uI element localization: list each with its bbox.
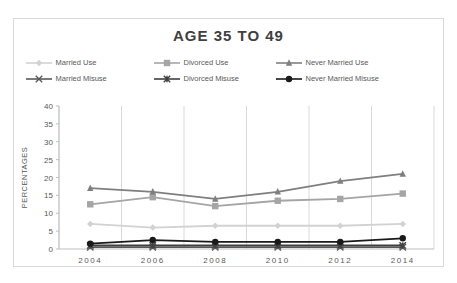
square-marker-icon xyxy=(212,203,218,209)
legend-key-icon xyxy=(275,57,303,69)
legend-label: Married Misuse xyxy=(56,74,107,83)
legend: Married UseDivorced UseNever Married Use… xyxy=(14,55,443,86)
circle-marker-icon xyxy=(150,237,156,243)
legend-label: Never Married Use xyxy=(306,58,369,67)
diamond-marker-icon xyxy=(150,224,156,230)
legend-label: Divorced Misuse xyxy=(184,74,239,83)
legend-item-divorced-misuse: Divorced Misuse xyxy=(153,71,275,86)
legend-label: Married Use xyxy=(56,58,97,67)
legend-item-never-married-use: Never Married Use xyxy=(275,55,433,70)
legend-key-icon xyxy=(153,73,181,85)
diamond-marker-icon xyxy=(400,221,406,227)
y-tick-label: 25 xyxy=(44,156,53,165)
diamond-marker-icon xyxy=(212,223,218,229)
diamond-marker-icon xyxy=(337,223,343,229)
square-marker-icon xyxy=(400,190,406,196)
y-tick-label: 35 xyxy=(44,120,53,129)
x-tick-label: 2014 xyxy=(391,256,415,265)
x-tick-label: 2006 xyxy=(141,256,165,265)
square-marker-icon xyxy=(87,201,93,207)
legend-item-never-married-misuse: Never Married Misuse xyxy=(275,71,433,86)
legend-key-icon xyxy=(25,73,53,85)
diamond-marker-icon xyxy=(275,223,281,229)
y-tick-label: 40 xyxy=(44,102,53,111)
diamond-marker-icon xyxy=(35,59,41,65)
x-tick-label: 2012 xyxy=(328,256,352,265)
y-axis-ticks: 0510152025303540 xyxy=(44,102,59,254)
legend-label: Divorced Use xyxy=(184,58,229,67)
circle-marker-icon xyxy=(337,239,343,245)
y-tick-label: 20 xyxy=(44,174,53,183)
legend-item-married-use: Married Use xyxy=(25,55,153,70)
y-tick-label: 5 xyxy=(49,227,54,236)
y-tick-label: 10 xyxy=(44,209,53,218)
legend-key-icon xyxy=(25,57,53,69)
x-axis-ticks: 200420062008201020122014 xyxy=(78,256,414,265)
circle-marker-icon xyxy=(275,239,281,245)
legend-row: Married UseDivorced UseNever Married Use xyxy=(25,55,433,70)
circle-marker-icon xyxy=(87,240,93,246)
legend-label: Never Married Misuse xyxy=(306,74,379,83)
diamond-marker-icon xyxy=(87,221,93,227)
square-marker-icon xyxy=(337,196,343,202)
x-tick-label: 2008 xyxy=(203,256,227,265)
legend-item-divorced-use: Divorced Use xyxy=(153,55,275,70)
circle-marker-icon xyxy=(400,235,406,241)
circle-marker-icon xyxy=(212,239,218,245)
square-marker-icon xyxy=(150,194,156,200)
legend-row: Married MisuseDivorced MisuseNever Marri… xyxy=(25,71,433,86)
legend-key-icon xyxy=(275,73,303,85)
square-marker-icon xyxy=(163,59,169,65)
y-axis-title: PERCENTAGES xyxy=(20,147,29,209)
legend-item-married-misuse: Married Misuse xyxy=(25,71,153,86)
legend-key-icon xyxy=(153,57,181,69)
chart-frame: 0510152025303540PERCENTAGES2004200620082… xyxy=(13,18,444,267)
y-tick-label: 30 xyxy=(44,138,53,147)
x-tick-label: 2010 xyxy=(266,256,290,265)
chart-title: AGE 35 TO 49 xyxy=(14,27,443,44)
y-tick-label: 0 xyxy=(49,245,54,254)
x-tick-label: 2004 xyxy=(78,256,102,265)
y-tick-label: 15 xyxy=(44,191,53,200)
square-marker-icon xyxy=(275,198,281,204)
circle-marker-icon xyxy=(285,75,291,81)
